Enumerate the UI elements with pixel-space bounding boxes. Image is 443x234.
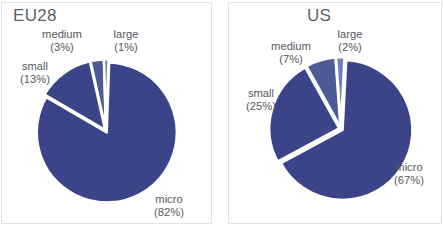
pie-label-micro: micro (82%) <box>141 193 197 219</box>
chart-panel-us: US medium (7%) large (2%) small (25%) mi… <box>228 2 442 224</box>
pie-label-small-name: small <box>4 60 66 73</box>
pie-label-large: large (1%) <box>100 28 152 54</box>
pie-label-small-value: (25%) <box>230 100 292 113</box>
pie-label-medium: medium (3%) <box>29 28 95 54</box>
pie-label-micro-name: micro <box>141 193 197 206</box>
pie-label-micro-value: (82%) <box>141 206 197 219</box>
pie-label-micro: micro (67%) <box>381 161 437 187</box>
pie-label-medium-name: medium <box>257 40 325 53</box>
pie-label-micro-name: micro <box>381 161 437 174</box>
pie-label-micro-value: (67%) <box>381 174 437 187</box>
pie-label-medium-name: medium <box>29 28 95 41</box>
pie-label-medium-value: (7%) <box>257 53 325 66</box>
pie-label-large-value: (1%) <box>100 41 152 54</box>
pie-label-medium-value: (3%) <box>29 41 95 54</box>
pie-label-small-name: small <box>230 87 292 100</box>
pie-label-medium: medium (7%) <box>257 40 325 66</box>
pie-label-large-name: large <box>325 28 375 41</box>
pie-label-small: small (25%) <box>230 87 292 113</box>
chart-panel-eu28: EU28 medium (3%) large (1%) small (13%) … <box>1 2 212 224</box>
pie-label-small: small (13%) <box>4 60 66 86</box>
pie-label-large: large (2%) <box>325 28 375 54</box>
pie-label-large-name: large <box>100 28 152 41</box>
pie-label-large-value: (2%) <box>325 41 375 54</box>
pie-label-small-value: (13%) <box>4 73 66 86</box>
figure-root: EU28 medium (3%) large (1%) small (13%) … <box>0 0 443 234</box>
